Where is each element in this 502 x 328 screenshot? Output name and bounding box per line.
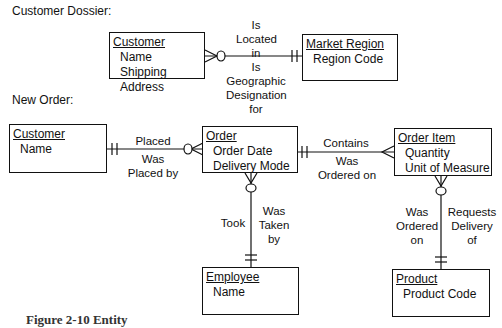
rel-word: Requests: [446, 205, 498, 219]
rel-word: Ordered on: [312, 168, 382, 182]
entity-attribute: Quantity: [398, 146, 491, 161]
entity-attribute: Name: [113, 50, 204, 65]
entity-product[interactable]: Product Product Code: [392, 269, 490, 317]
rel-word: on: [396, 233, 438, 247]
entity-name: Market Region: [306, 37, 397, 52]
rel-word: Designation: [226, 88, 286, 102]
rel-label-was-ordered-on: Was Ordered on: [312, 154, 382, 182]
entity-market-region[interactable]: Market Region Region Code: [302, 34, 398, 81]
rel-label-took: Took: [218, 216, 248, 230]
entity-name: Order: [206, 129, 297, 144]
rel-label-contains: Contains: [316, 136, 376, 150]
rel-word: for: [226, 102, 286, 116]
rel-word: Was: [256, 204, 292, 218]
rel-word: Delivery: [446, 219, 498, 233]
entity-employee[interactable]: Employee Name: [202, 267, 299, 315]
entity-order-item[interactable]: Order Item Quantity Unit of Measure: [394, 128, 492, 176]
entity-name: Customer: [113, 35, 204, 50]
entity-customer-dossier[interactable]: Customer Name Shipping Address: [109, 32, 205, 79]
rel-label-is-located-in: Is Located in: [236, 18, 276, 60]
entity-attribute: Unit of Measure: [398, 161, 491, 176]
rel-label-is-geographic-designation-for: Is Geographic Designation for: [226, 60, 286, 116]
rel-label-requests-delivery-of: Requests Delivery of: [446, 205, 498, 247]
rel-word: Taken: [256, 218, 292, 232]
rel-label-placed: Placed: [128, 134, 178, 148]
rel-word: Geographic: [226, 74, 286, 88]
rel-word: Is: [236, 18, 276, 32]
entity-name: Product: [396, 272, 489, 287]
entity-attribute: Order Date: [206, 144, 297, 159]
entity-attribute: Product Code: [396, 287, 489, 302]
figure-caption: Figure 2-10 Entity: [26, 312, 128, 328]
entity-name: Customer: [13, 127, 106, 142]
entity-name: Employee: [206, 270, 298, 285]
entity-customer-order[interactable]: Customer Name: [9, 124, 107, 173]
entity-attribute: Shipping Address: [113, 65, 204, 95]
entity-attribute: Name: [206, 285, 298, 300]
rel-word: Was: [312, 154, 382, 168]
rel-word: Is: [226, 60, 286, 74]
entity-name: Order Item: [398, 131, 491, 146]
entity-attribute: Region Code: [306, 52, 397, 67]
entity-attribute: Delivery Mode: [206, 159, 297, 174]
entity-order[interactable]: Order Order Date Delivery Mode: [202, 126, 298, 173]
rel-word: by: [256, 232, 292, 246]
rel-label-was-taken-by: Was Taken by: [256, 204, 292, 246]
rel-word: in: [236, 46, 276, 60]
rel-word: Was: [396, 205, 438, 219]
rel-word: Was: [120, 152, 186, 166]
rel-word: Placed by: [120, 166, 186, 180]
rel-word: Located: [236, 32, 276, 46]
rel-word: of: [446, 233, 498, 247]
entity-attribute: Name: [13, 142, 106, 157]
rel-label-was-ordered-on-product: Was Ordered on: [396, 205, 438, 247]
rel-label-was-placed-by: Was Placed by: [120, 152, 186, 180]
rel-word: Ordered: [396, 219, 438, 233]
